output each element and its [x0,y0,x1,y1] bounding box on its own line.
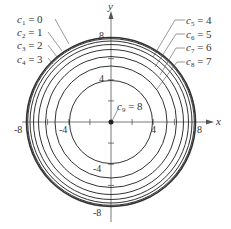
labels-left: c1 = 0 c2 = 1 c3 = 2 c4 = 3 [17,13,43,67]
y-axis-arrow-icon [109,11,114,19]
y-tick-label: -8 [93,207,101,218]
labels-right: c5 = 4 c6 = 5 c7 = 6 c8 = 7 [186,14,212,69]
label-c4: c4 = 3 [17,53,43,67]
x-axis-label: x [215,115,221,127]
label-c6: c6 = 5 [186,28,212,42]
x-tick-label: 8 [197,124,202,135]
x-tick-label: -8 [14,124,22,135]
label-c8: c8 = 7 [186,55,212,69]
x-tick-label: -4 [59,124,67,135]
level-curves-diagram: x y -8 -4 4 8 8 4 -4 -8 [0,0,231,229]
y-axis-label: y [107,0,113,12]
label-c1: c1 = 0 [17,13,43,27]
label-c9: c9 = 8 [117,100,143,114]
y-tick-label: -4 [93,163,101,174]
level-curve-c9-point [109,120,114,125]
label-c7: c7 = 6 [186,41,212,55]
label-c3: c3 = 2 [17,39,43,53]
x-axis-arrow-icon [206,120,214,125]
label-c2: c2 = 1 [17,26,43,40]
label-c5: c5 = 4 [186,14,212,28]
